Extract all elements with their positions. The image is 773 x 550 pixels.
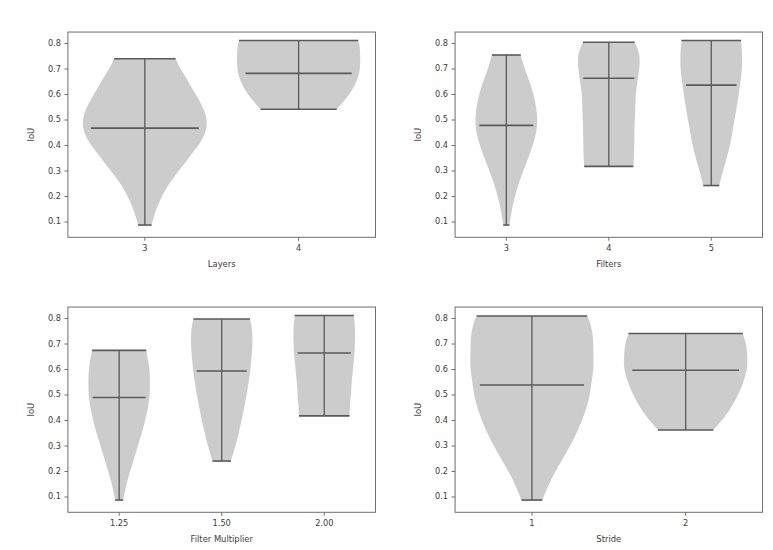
panel-layers: 0.10.20.30.40.50.60.70.8IoU34Layers <box>0 0 387 275</box>
y-tick-label: 0.3 <box>48 165 61 175</box>
panel-filter-multiplier-svg: 0.10.20.30.40.50.60.70.8IoU1.251.502.00F… <box>0 275 387 550</box>
y-tick-label: 0.7 <box>48 339 61 349</box>
y-tick-label: 0.6 <box>48 89 61 99</box>
y-axis-title: IoU <box>413 128 423 142</box>
y-tick-label: 0.2 <box>435 191 448 201</box>
y-tick-label: 0.3 <box>48 441 61 451</box>
panel-stride-svg: 0.10.20.30.40.50.60.70.8IoU12Stride <box>387 275 773 550</box>
y-tick-label: 0.6 <box>435 89 448 99</box>
y-tick-label: 0.1 <box>48 492 61 502</box>
y-tick-label: 0.4 <box>435 140 448 150</box>
x-axis-title: Filters <box>596 259 621 269</box>
x-tick-label: 5 <box>708 243 713 253</box>
x-tick-label: 3 <box>503 243 508 253</box>
panel-filters: 0.10.20.30.40.50.60.70.8IoU345Filters <box>387 0 773 275</box>
y-tick-label: 0.8 <box>435 38 448 48</box>
violin-plot-grid: 0.10.20.30.40.50.60.70.8IoU34Layers 0.10… <box>0 0 773 550</box>
panel-filter-multiplier: 0.10.20.30.40.50.60.70.8IoU1.251.502.00F… <box>0 275 387 550</box>
y-tick-label: 0.2 <box>435 466 448 476</box>
y-tick-label: 0.6 <box>48 364 61 374</box>
y-tick-label: 0.1 <box>48 216 61 226</box>
y-tick-label: 0.5 <box>48 390 61 400</box>
x-tick-label: 1 <box>529 518 534 528</box>
x-axis-title: Filter Multiplier <box>191 534 254 544</box>
y-tick-label: 0.6 <box>435 364 448 374</box>
y-tick-label: 0.5 <box>48 114 61 124</box>
x-tick-label: 4 <box>296 243 301 253</box>
y-axis-title: IoU <box>413 403 423 417</box>
panel-filters-svg: 0.10.20.30.40.50.60.70.8IoU345Filters <box>387 0 773 275</box>
y-tick-label: 0.1 <box>435 492 448 502</box>
y-tick-label: 0.1 <box>435 216 448 226</box>
x-tick-label: 2 <box>683 518 688 528</box>
y-tick-label: 0.2 <box>48 466 61 476</box>
y-tick-label: 0.7 <box>435 339 448 349</box>
y-tick-label: 0.4 <box>48 415 61 425</box>
y-axis-title: IoU <box>26 128 36 142</box>
y-tick-label: 0.5 <box>435 115 448 125</box>
y-tick-label: 0.8 <box>435 313 448 323</box>
y-tick-label: 0.3 <box>435 166 448 176</box>
y-tick-label: 0.4 <box>48 140 61 150</box>
x-axis-title: Stride <box>596 534 621 544</box>
x-axis-title: Layers <box>208 259 236 269</box>
x-tick-label: 3 <box>142 243 147 253</box>
y-tick-label: 0.7 <box>48 64 61 74</box>
x-tick-label: 2.00 <box>315 518 333 528</box>
y-tick-label: 0.7 <box>435 64 448 74</box>
x-tick-label: 1.50 <box>213 518 231 528</box>
y-tick-label: 0.2 <box>48 191 61 201</box>
y-tick-label: 0.8 <box>48 313 61 323</box>
x-tick-label: 1.25 <box>110 518 128 528</box>
y-tick-label: 0.4 <box>435 415 448 425</box>
panel-layers-svg: 0.10.20.30.40.50.60.70.8IoU34Layers <box>0 0 387 275</box>
y-axis-title: IoU <box>26 403 36 417</box>
panel-stride: 0.10.20.30.40.50.60.70.8IoU12Stride <box>387 275 773 550</box>
x-tick-label: 4 <box>606 243 611 253</box>
y-tick-label: 0.5 <box>435 390 448 400</box>
y-tick-label: 0.8 <box>48 38 61 48</box>
y-tick-label: 0.3 <box>435 441 448 451</box>
